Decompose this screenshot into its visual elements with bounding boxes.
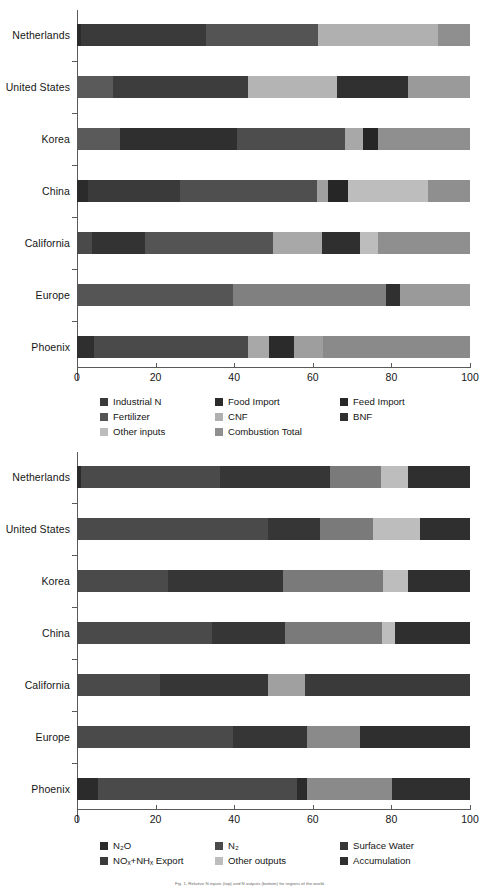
stacked-bar[interactable] — [77, 518, 470, 540]
bar-segment[interactable] — [360, 726, 470, 748]
legend-item[interactable]: Feed Import — [340, 396, 405, 407]
bar-segment[interactable] — [206, 24, 318, 46]
bar-segment[interactable] — [420, 518, 470, 540]
legend-item[interactable]: Industrial N — [100, 396, 162, 407]
bar-segment[interactable] — [317, 180, 328, 202]
bar-segment[interactable] — [145, 232, 273, 254]
bar-segment[interactable] — [438, 24, 470, 46]
legend-item[interactable]: Fertilizer — [100, 411, 150, 422]
legend-item[interactable]: CNF — [215, 411, 248, 422]
bar-segment[interactable] — [160, 674, 268, 696]
bar-segment[interactable] — [318, 24, 438, 46]
bar-segment[interactable] — [212, 622, 285, 644]
legend-item[interactable]: BNF — [340, 411, 372, 422]
legend-item[interactable]: N₂ — [215, 840, 239, 851]
bar-segment[interactable] — [77, 778, 98, 800]
bar-segment[interactable] — [408, 76, 470, 98]
bar-segment[interactable] — [386, 284, 400, 306]
bar-segment[interactable] — [383, 570, 408, 592]
stacked-bar[interactable] — [77, 284, 470, 306]
bar-segment[interactable] — [273, 232, 322, 254]
stacked-bar[interactable] — [77, 622, 470, 644]
bar-segment[interactable] — [77, 232, 92, 254]
bar-segment[interactable] — [297, 778, 307, 800]
bar-segment[interactable] — [233, 726, 307, 748]
legend-item[interactable]: Food Import — [215, 396, 280, 407]
bar-segment[interactable] — [233, 284, 386, 306]
bar-segment[interactable] — [269, 336, 294, 358]
bar-segment[interactable] — [323, 336, 470, 358]
bar-segment[interactable] — [330, 466, 381, 488]
stacked-bar[interactable] — [77, 778, 470, 800]
stacked-bar[interactable] — [77, 24, 470, 46]
bar-segment[interactable] — [77, 76, 113, 98]
stacked-bar[interactable] — [77, 570, 470, 592]
bar-segment[interactable] — [381, 466, 408, 488]
bar-segment[interactable] — [268, 518, 320, 540]
stacked-bar[interactable] — [77, 336, 470, 358]
legend-item[interactable]: NOₓ+NHₓ Export — [100, 855, 184, 866]
bar-segment[interactable] — [392, 778, 470, 800]
legend-item[interactable]: Other inputs — [100, 426, 165, 437]
legend-item[interactable]: Surface Water — [340, 840, 414, 851]
bar-segment[interactable] — [92, 232, 145, 254]
bar-segment[interactable] — [77, 180, 88, 202]
bar-segment[interactable] — [248, 76, 337, 98]
bar-segment[interactable] — [285, 622, 382, 644]
bar-segment[interactable] — [283, 570, 383, 592]
bar-segment[interactable] — [294, 336, 323, 358]
bar-segment[interactable] — [98, 778, 297, 800]
bar-segment[interactable] — [363, 128, 378, 150]
bar-segment[interactable] — [307, 778, 392, 800]
bar-segment[interactable] — [428, 180, 470, 202]
stacked-bar[interactable] — [77, 232, 470, 254]
bar-segment[interactable] — [77, 336, 94, 358]
bar-segment[interactable] — [328, 180, 348, 202]
stacked-bar[interactable] — [77, 180, 470, 202]
stacked-bar[interactable] — [77, 466, 470, 488]
bar-segment[interactable] — [408, 570, 470, 592]
bar-segment[interactable] — [268, 674, 305, 696]
bar-segment[interactable] — [81, 466, 220, 488]
bar-segment[interactable] — [360, 232, 378, 254]
bar-segment[interactable] — [168, 570, 283, 592]
bar-segment[interactable] — [337, 76, 408, 98]
bar-segment[interactable] — [320, 518, 373, 540]
bar-segment[interactable] — [395, 622, 470, 644]
bar-segment[interactable] — [248, 336, 269, 358]
bar-segment[interactable] — [77, 622, 212, 644]
bar-segment[interactable] — [77, 284, 233, 306]
stacked-bar[interactable] — [77, 674, 470, 696]
stacked-bar[interactable] — [77, 726, 470, 748]
bar-segment[interactable] — [77, 518, 268, 540]
bar-segment[interactable] — [237, 128, 345, 150]
bar-segment[interactable] — [382, 622, 395, 644]
bar-segment[interactable] — [307, 726, 360, 748]
legend-item[interactable]: Accumulation — [340, 855, 411, 866]
bar-segment[interactable] — [77, 726, 233, 748]
bar-segment[interactable] — [348, 180, 428, 202]
bar-segment[interactable] — [408, 466, 470, 488]
bar-segment[interactable] — [378, 128, 470, 150]
bar-segment[interactable] — [113, 76, 248, 98]
legend-item[interactable]: Other outputs — [215, 855, 286, 866]
bar-segment[interactable] — [180, 180, 317, 202]
bar-segment[interactable] — [81, 24, 206, 46]
bar-segment[interactable] — [400, 284, 470, 306]
legend-item[interactable]: N₂O — [100, 840, 131, 851]
legend-item[interactable]: Combustion Total — [215, 426, 302, 437]
bar-segment[interactable] — [378, 232, 470, 254]
stacked-bar[interactable] — [77, 76, 470, 98]
bar-segment[interactable] — [373, 518, 420, 540]
bar-segment[interactable] — [322, 232, 360, 254]
bar-segment[interactable] — [120, 128, 237, 150]
bar-segment[interactable] — [94, 336, 248, 358]
bar-segment[interactable] — [77, 674, 160, 696]
bar-segment[interactable] — [77, 570, 168, 592]
stacked-bar[interactable] — [77, 128, 470, 150]
bar-segment[interactable] — [220, 466, 330, 488]
bar-segment[interactable] — [88, 180, 180, 202]
bar-segment[interactable] — [345, 128, 363, 150]
bar-segment[interactable] — [77, 128, 120, 150]
bar-segment[interactable] — [305, 674, 470, 696]
